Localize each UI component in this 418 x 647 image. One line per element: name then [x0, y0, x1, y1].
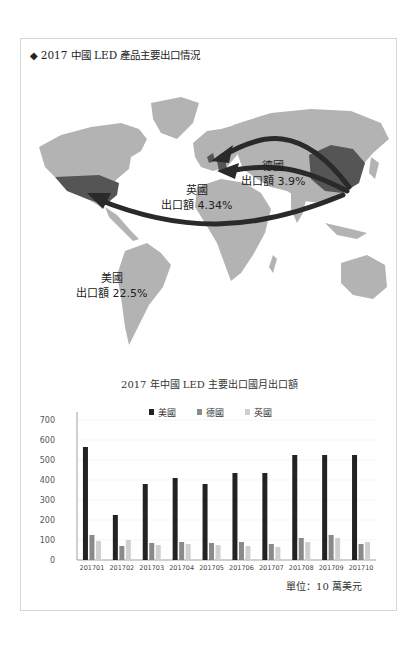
map-label-germany: 德國 出口額 3.9% — [241, 159, 305, 189]
unit-label: 單位：10 萬美元 — [286, 578, 362, 593]
legend-swatch — [197, 409, 202, 415]
bar — [149, 543, 154, 560]
x-tick-label: 201706 — [229, 564, 254, 572]
world-map: 德國 出口額 3.9% 英國 出口額 4.34% 美國 出口額 22.5% 中國 — [21, 83, 398, 383]
uk-name: 英國 — [161, 183, 232, 198]
bar — [119, 546, 124, 560]
bar-chart: 0100200300400500600700201701201702201703… — [21, 399, 398, 579]
y-tick-label: 600 — [40, 436, 55, 445]
bar — [232, 473, 237, 560]
bar — [173, 478, 178, 560]
bar — [179, 542, 184, 560]
bar — [113, 515, 118, 560]
legend-swatch — [149, 409, 154, 415]
x-tick-label: 201707 — [259, 564, 284, 572]
legend-swatch — [245, 409, 250, 415]
bar — [329, 535, 334, 560]
bar — [143, 484, 148, 560]
germany-name: 德國 — [241, 159, 305, 174]
y-tick-label: 300 — [40, 496, 55, 505]
bar — [359, 544, 364, 560]
bar — [262, 473, 267, 560]
legend-label: 美國 — [158, 407, 176, 418]
y-tick-label: 100 — [40, 536, 55, 545]
legend-label: 英國 — [254, 407, 272, 418]
bar — [83, 447, 88, 560]
germany-share: 出口額 3.9% — [241, 174, 305, 189]
bar — [269, 544, 274, 560]
bar — [186, 544, 191, 560]
y-tick-label: 0 — [50, 556, 55, 565]
usa-name: 美國 — [76, 271, 147, 286]
bar — [89, 535, 94, 560]
bar — [216, 545, 221, 560]
bar — [322, 455, 327, 560]
bar — [245, 546, 250, 560]
bar — [292, 455, 297, 560]
bar — [156, 545, 161, 560]
x-tick-label: 201702 — [109, 564, 134, 572]
bar — [126, 540, 131, 560]
bar — [209, 543, 214, 560]
map-label-uk: 英國 出口額 4.34% — [161, 183, 232, 213]
legend-label: 德國 — [206, 407, 224, 418]
y-tick-label: 700 — [40, 416, 55, 425]
diamond-icon: ◆ — [30, 50, 38, 61]
x-tick-label: 201710 — [349, 564, 374, 572]
x-tick-label: 201704 — [169, 564, 194, 572]
chart-title: 2017 年中國 LED 主要出口國月出口額 — [21, 376, 398, 391]
china-name: 中國 — [326, 209, 346, 224]
x-tick-label: 201709 — [319, 564, 344, 572]
bar — [96, 541, 101, 560]
bar — [352, 455, 357, 560]
x-tick-label: 201708 — [289, 564, 314, 572]
bar — [305, 542, 310, 560]
x-tick-label: 201705 — [199, 564, 224, 572]
map-label-usa: 美國 出口額 22.5% — [76, 271, 147, 301]
map-label-china: 中國 — [326, 209, 346, 224]
bar — [203, 484, 208, 560]
x-tick-label: 201703 — [139, 564, 164, 572]
y-tick-label: 200 — [40, 516, 55, 525]
bar — [239, 542, 244, 560]
usa-share: 出口額 22.5% — [76, 286, 147, 301]
bar — [335, 538, 340, 560]
y-tick-label: 400 — [40, 476, 55, 485]
section-title: 2017 中國 LED 產品主要出口情況 — [41, 49, 201, 61]
bar — [275, 547, 280, 560]
x-tick-label: 201701 — [80, 564, 105, 572]
export-infographic: ◆2017 中國 LED 產品主要出口情況 — [20, 38, 397, 611]
section-heading: ◆2017 中國 LED 產品主要出口情況 — [30, 47, 201, 62]
uk-share: 出口額 4.34% — [161, 198, 232, 213]
y-tick-label: 500 — [40, 456, 55, 465]
bar — [365, 542, 370, 560]
bar — [299, 538, 304, 560]
